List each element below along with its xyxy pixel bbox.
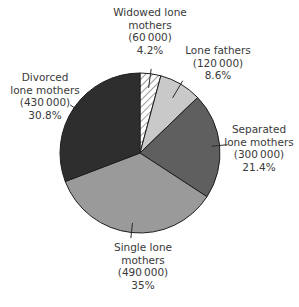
label-single-count: (490 000) xyxy=(114,266,172,279)
label-separated-line1: Separated xyxy=(224,123,293,136)
label-single-line1: Single lone xyxy=(114,241,172,254)
label-separated: Separated lone mothers (300 000) 21.4% xyxy=(224,123,293,173)
label-divorced: Divorced lone mothers (430 000) 30.8% xyxy=(10,71,79,121)
label-fathers-count: (120 000) xyxy=(185,57,251,70)
label-single: Single lone mothers (490 000) 35% xyxy=(114,241,172,291)
label-single-percent: 35% xyxy=(114,279,172,292)
label-single-line2: mothers xyxy=(114,254,172,267)
label-widowed-line2: mothers xyxy=(113,19,187,32)
label-widowed: Widowed lone mothers (60 000) 4.2% xyxy=(113,6,187,56)
label-fathers: Lone fathers (120 000) 8.6% xyxy=(185,44,251,82)
label-widowed-count: (60 000) xyxy=(113,31,187,44)
label-divorced-line2: lone mothers xyxy=(10,84,79,97)
pie-slices xyxy=(60,73,220,233)
label-widowed-line1: Widowed lone xyxy=(113,6,187,19)
label-divorced-count: (430 000) xyxy=(10,96,79,109)
label-separated-line2: lone mothers xyxy=(224,136,293,149)
label-separated-percent: 21.4% xyxy=(224,161,293,174)
label-fathers-percent: 8.6% xyxy=(185,69,251,82)
label-separated-count: (300 000) xyxy=(224,148,293,161)
label-divorced-percent: 30.8% xyxy=(10,109,79,122)
label-widowed-percent: 4.2% xyxy=(113,44,187,57)
label-divorced-line1: Divorced xyxy=(10,71,79,84)
label-fathers-line1: Lone fathers xyxy=(185,44,251,57)
